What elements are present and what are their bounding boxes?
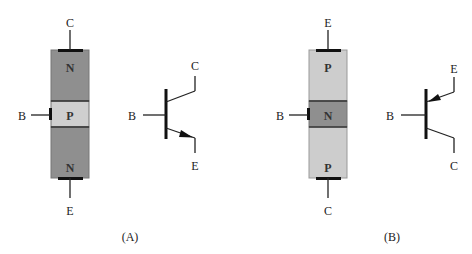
symbol-label: E bbox=[450, 62, 457, 76]
npn-symbol: C B E bbox=[128, 59, 199, 173]
panel-caption: (B) bbox=[384, 230, 400, 244]
terminal-label: C bbox=[324, 204, 332, 218]
symbol-label: E bbox=[191, 159, 198, 173]
layer-label: P bbox=[324, 161, 331, 175]
terminal-label: B bbox=[276, 109, 284, 123]
base-contact bbox=[49, 108, 52, 120]
layer-top-p bbox=[309, 50, 347, 101]
terminal-label: E bbox=[324, 16, 331, 30]
panel-caption: (A) bbox=[122, 230, 139, 244]
terminal-label: C bbox=[66, 16, 74, 30]
npn-structure: N P N C B E bbox=[18, 16, 89, 218]
terminal-label: B bbox=[18, 109, 26, 123]
symbol-label: B bbox=[128, 109, 136, 123]
layer-label: P bbox=[324, 61, 331, 75]
layer-label: N bbox=[324, 109, 333, 123]
panel-a: N P N C B E C B E (A) bbox=[18, 16, 199, 244]
pnp-symbol: E B C bbox=[386, 62, 458, 173]
layer-label: N bbox=[66, 161, 75, 175]
emitter-arrow-icon bbox=[428, 94, 441, 102]
emitter-arrow-icon bbox=[179, 130, 193, 138]
layer-label: N bbox=[66, 61, 75, 75]
transistor-diagram: N P N C B E C B E (A) bbox=[0, 0, 472, 254]
terminal-label: E bbox=[66, 204, 73, 218]
symbol-label: C bbox=[191, 59, 199, 73]
pnp-structure: P N P E B C bbox=[276, 16, 347, 218]
layer-top-n bbox=[51, 50, 89, 101]
panel-b: P N P E B C E B C (B) bbox=[276, 16, 458, 244]
layer-label: P bbox=[66, 109, 73, 123]
symbol-label: B bbox=[386, 109, 394, 123]
base-contact bbox=[307, 108, 310, 120]
symbol-label: C bbox=[450, 159, 458, 173]
